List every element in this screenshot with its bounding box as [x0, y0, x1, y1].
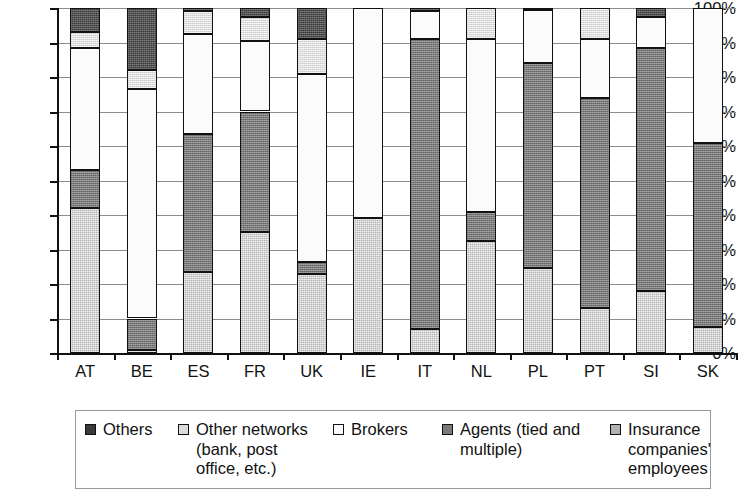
bar-segment-other_networks[interactable]: [466, 8, 496, 39]
bar-group[interactable]: [523, 8, 553, 353]
bar-group[interactable]: [410, 8, 440, 353]
x-axis-tick-mark: [510, 353, 512, 360]
bar-segment-agents[interactable]: [70, 170, 100, 208]
bar-group[interactable]: [636, 8, 666, 353]
bar-group[interactable]: [240, 8, 270, 353]
bar-segment-employees[interactable]: [636, 291, 666, 353]
x-axis-tick-mark: [57, 353, 59, 360]
bar-segment-other_networks[interactable]: [297, 39, 327, 74]
y-axis-tick-mark: [50, 215, 57, 217]
bar-group[interactable]: [580, 8, 610, 353]
x-axis-tick-label: FR: [225, 362, 285, 380]
legend-swatch-icon: [85, 424, 96, 435]
bar-segment-employees[interactable]: [127, 350, 157, 353]
x-axis-tick-label: NL: [451, 362, 511, 380]
bar-segment-employees[interactable]: [523, 268, 553, 353]
bar-segment-agents[interactable]: [297, 262, 327, 274]
y-axis-tick-mark: [50, 181, 57, 183]
x-axis-tick-mark: [679, 353, 681, 360]
x-axis-tick-mark: [397, 353, 399, 360]
bar-segment-agents[interactable]: [127, 319, 157, 350]
bar-group[interactable]: [70, 8, 100, 353]
bar-segment-others[interactable]: [240, 8, 270, 17]
bar-segment-employees[interactable]: [693, 327, 723, 353]
bar-segment-others[interactable]: [410, 8, 440, 11]
bar-segment-other_networks[interactable]: [580, 8, 610, 39]
y-axis-tick-mark: [50, 112, 57, 114]
x-axis-tick-label: AT: [55, 362, 115, 380]
bar-segment-employees[interactable]: [183, 272, 213, 353]
bar-segment-employees[interactable]: [410, 329, 440, 353]
bar-segment-agents[interactable]: [523, 63, 553, 268]
bar-segment-brokers[interactable]: [466, 39, 496, 212]
bar-stack: [297, 8, 327, 353]
bar-segment-brokers[interactable]: [523, 10, 553, 63]
bar-segment-agents[interactable]: [466, 212, 496, 241]
bar-segment-other_networks[interactable]: [127, 70, 157, 89]
bar-group[interactable]: [466, 8, 496, 353]
bar-segment-agents[interactable]: [410, 39, 440, 329]
bar-segment-brokers[interactable]: [636, 17, 666, 48]
legend-swatch-icon: [442, 424, 453, 435]
plot-area: [57, 8, 736, 353]
bar-segment-brokers[interactable]: [70, 48, 100, 170]
bar-stack: [580, 8, 610, 353]
bar-segment-agents[interactable]: [183, 134, 213, 272]
y-axis-tick-mark: [50, 319, 57, 321]
bar-segment-agents[interactable]: [693, 143, 723, 328]
bar-segment-employees[interactable]: [70, 208, 100, 353]
bar-stack: [636, 8, 666, 353]
legend-item[interactable]: Insurance companies' employees: [610, 420, 740, 479]
legend-item[interactable]: Other networks (bank, post office, etc.): [178, 420, 320, 479]
bar-segment-brokers[interactable]: [127, 89, 157, 318]
y-axis-tick-mark: [50, 250, 57, 252]
bar-segment-brokers[interactable]: [693, 8, 723, 143]
bar-segment-agents[interactable]: [240, 112, 270, 233]
bar-segment-employees[interactable]: [353, 218, 383, 353]
y-axis-tick-mark: [50, 8, 57, 10]
x-axis-tick-label: PT: [565, 362, 625, 380]
bar-segment-agents[interactable]: [580, 98, 610, 308]
bar-segment-brokers[interactable]: [183, 34, 213, 134]
bar-segment-employees[interactable]: [466, 241, 496, 353]
bar-segment-brokers[interactable]: [410, 11, 440, 39]
bar-segment-employees[interactable]: [580, 308, 610, 353]
legend-item[interactable]: Agents (tied and multiple): [442, 420, 597, 459]
bar-segment-agents[interactable]: [636, 48, 666, 291]
bar-segment-brokers[interactable]: [353, 8, 383, 218]
bar-segment-brokers[interactable]: [297, 74, 327, 262]
bar-group[interactable]: [297, 8, 327, 353]
bar-stack: [466, 8, 496, 353]
bar-group[interactable]: [693, 8, 723, 353]
bar-segment-others[interactable]: [183, 8, 213, 11]
bar-segment-others[interactable]: [523, 8, 553, 10]
bar-segment-others[interactable]: [127, 8, 157, 70]
bar-segment-other_networks[interactable]: [240, 17, 270, 41]
legend: OthersOther networks (bank, post office,…: [75, 410, 711, 489]
legend-swatch-icon: [610, 424, 621, 435]
legend-item[interactable]: Others: [85, 420, 165, 440]
bar-segment-others[interactable]: [70, 8, 100, 32]
legend-swatch-icon: [178, 424, 189, 435]
bar-segment-other_networks[interactable]: [183, 11, 213, 33]
y-axis-tick-mark: [50, 284, 57, 286]
x-axis-tick-label: PL: [508, 362, 568, 380]
bar-segment-others[interactable]: [636, 8, 666, 17]
bar-group[interactable]: [353, 8, 383, 353]
y-axis-tick-mark: [50, 43, 57, 45]
bar-group[interactable]: [183, 8, 213, 353]
legend-label: Insurance companies' employees: [628, 420, 740, 479]
bar-segment-employees[interactable]: [297, 274, 327, 353]
y-axis-tick-mark: [50, 353, 57, 355]
legend-label: Agents (tied and multiple): [460, 420, 597, 459]
legend-item[interactable]: Brokers: [333, 420, 429, 440]
legend-label: Other networks (bank, post office, etc.): [196, 420, 320, 479]
bar-segment-others[interactable]: [297, 8, 327, 39]
bar-segment-employees[interactable]: [240, 232, 270, 353]
bar-segment-brokers[interactable]: [580, 39, 610, 98]
bar-group[interactable]: [127, 8, 157, 353]
bar-segment-other_networks[interactable]: [70, 32, 100, 48]
bar-segment-brokers[interactable]: [240, 41, 270, 112]
y-axis-tick-mark: [50, 77, 57, 79]
